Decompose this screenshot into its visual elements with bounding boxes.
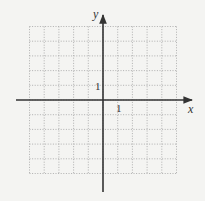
x-tick-label-1: 1 — [116, 102, 122, 114]
y-axis-label: y — [92, 7, 99, 21]
x-axis-label: x — [187, 102, 194, 116]
coordinate-plane: x y 1 1 — [0, 0, 205, 201]
y-tick-label-1: 1 — [95, 80, 101, 92]
